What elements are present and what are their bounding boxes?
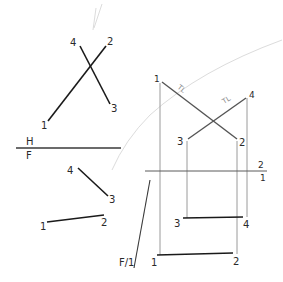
fold-label-h: H [26,136,34,147]
auxiliary-view-2: 3 4 1 2 [151,217,249,268]
aux2-label-4: 4 [243,219,249,230]
top-label-4: 4 [70,37,76,48]
aux2-line-1-2 [157,253,233,255]
fold-label-f: F [26,150,32,161]
fold-label-2: 2 [258,160,264,170]
front-line-4-3 [78,168,108,196]
top-line-1-2 [48,46,106,121]
projector-lines [160,83,247,255]
front-label-1: 1 [40,221,46,232]
front-view: 4 3 1 2 [40,165,115,232]
aux1-label-3: 3 [177,136,183,147]
front-label-3: 3 [109,194,115,205]
projection-diagram: 4 2 3 1 H F 4 3 1 2 F/1 1 4 3 2 TL T [0,0,283,282]
fold-label-f1: F/1 [119,257,134,268]
aux1-label-2: 2 [239,137,245,148]
aux2-line-3-4 [183,217,243,218]
fold-line-f1: F/1 [119,180,150,268]
fold-label-1: 1 [260,173,266,183]
top-label-3: 3 [111,103,117,114]
aux2-label-1: 1 [151,257,157,268]
fold-line-12: 2 1 [145,160,267,183]
fold-line-hf: H F [16,136,121,161]
aux1-label-4: 4 [249,90,255,100]
front-label-4: 4 [67,165,73,176]
aux2-label-3: 3 [174,218,180,229]
true-length-mark-2: TL [220,95,232,107]
aux2-label-2: 2 [233,256,239,267]
front-line-1-2 [47,215,104,222]
front-label-2: 2 [101,217,107,228]
aux1-label-1: 1 [154,74,160,84]
top-view: 4 2 3 1 [41,36,117,131]
aux1-line-3-4 [188,98,246,139]
top-label-2: 2 [107,36,113,47]
auxiliary-view-1: 1 4 3 2 TL TL [154,74,255,148]
top-label-1: 1 [41,120,47,131]
